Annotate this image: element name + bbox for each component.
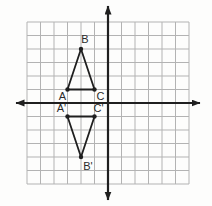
- vertex-label-B-prime: B': [83, 160, 92, 172]
- vertex-dot-A-prime: [65, 114, 69, 118]
- vertex-label-B: B: [81, 33, 88, 45]
- vertex-dot-B-prime: [79, 155, 83, 159]
- vertex-dot-B: [79, 47, 83, 51]
- vertex-label-A-prime: A': [57, 102, 66, 114]
- figure-canvas: ABCA'B'C': [0, 0, 212, 206]
- vertex-dot-C-prime: [92, 114, 96, 118]
- vertex-label-C: C: [97, 90, 105, 102]
- vertex-label-C-prime: C': [93, 102, 103, 114]
- vertex-label-A: A: [59, 90, 67, 102]
- coordinate-grid-figure: ABCA'B'C': [0, 0, 212, 206]
